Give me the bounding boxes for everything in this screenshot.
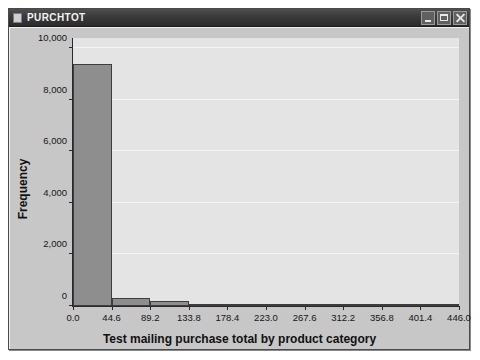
y-tick-label: 6,000: [43, 135, 67, 146]
screenshot-root: PURCHTOT Frequency 02,0004,0006,0008,000…: [0, 0, 480, 360]
x-tick-mark: [112, 306, 113, 310]
plot-area: 02,0004,0006,0008,00010,0000.044.689.213…: [72, 38, 459, 307]
histogram-chart: Frequency 02,0004,0006,0008,00010,0000.0…: [9, 27, 469, 349]
y-tick-label: 0: [62, 290, 67, 301]
y-tick-label: 10,000: [38, 32, 67, 43]
y-gridline: [73, 253, 459, 254]
x-tick-mark: [459, 306, 460, 310]
x-tick-label: 133.8: [177, 312, 201, 323]
x-tick-mark: [266, 306, 267, 310]
x-tick-label: 401.4: [409, 312, 433, 323]
histogram-bar: [343, 304, 382, 306]
document-icon: [13, 13, 22, 23]
y-axis-title: Frequency: [13, 28, 33, 349]
x-tick-mark: [382, 306, 383, 310]
y-tick-label: 4,000: [43, 186, 67, 197]
histogram-bar: [227, 304, 266, 306]
y-gridline: [73, 47, 459, 48]
histogram-bar: [189, 304, 228, 306]
x-tick-mark: [420, 306, 421, 310]
x-tick-label: 89.2: [141, 312, 160, 323]
x-tick-label: 223.0: [254, 312, 278, 323]
x-tick-label: 312.2: [331, 312, 355, 323]
maximize-button[interactable]: [437, 11, 451, 25]
close-button[interactable]: [453, 11, 467, 25]
minimize-button[interactable]: [421, 11, 435, 25]
histogram-bar: [150, 301, 189, 306]
y-gridline: [73, 99, 459, 100]
x-axis-title: Test mailing purchase total by product c…: [10, 332, 469, 346]
histogram-bar: [382, 304, 421, 306]
window-titlebar[interactable]: PURCHTOT: [9, 9, 469, 27]
y-tick-mark: [69, 47, 73, 48]
y-tick-label: 8,000: [43, 83, 67, 94]
x-tick-label: 356.8: [370, 312, 394, 323]
x-tick-label: 446.0: [447, 312, 471, 323]
histogram-bar: [305, 304, 344, 306]
histogram-bar: [73, 64, 112, 306]
histogram-bar: [112, 298, 151, 306]
y-gridline: [73, 202, 459, 203]
histogram-bar: [420, 304, 459, 306]
window-title: PURCHTOT: [27, 12, 421, 23]
x-tick-mark: [227, 306, 228, 310]
x-tick-label: 44.6: [102, 312, 121, 323]
x-tick-label: 178.4: [216, 312, 240, 323]
x-tick-mark: [305, 306, 306, 310]
x-tick-label: 267.6: [293, 312, 317, 323]
x-tick-mark: [150, 306, 151, 310]
y-tick-label: 2,000: [43, 238, 67, 249]
x-tick-mark: [343, 306, 344, 310]
plot-area-wrapper: 02,0004,0006,0008,00010,0000.044.689.213…: [72, 38, 459, 307]
x-tick-mark: [73, 306, 74, 310]
histogram-bar: [266, 304, 305, 306]
window-controls: [421, 11, 467, 25]
chart-window: PURCHTOT Frequency 02,0004,0006,0008,000…: [8, 8, 470, 350]
x-tick-mark: [189, 306, 190, 310]
y-axis-title-text: Frequency: [16, 158, 30, 219]
x-tick-label: 0.0: [66, 312, 79, 323]
y-gridline: [73, 150, 459, 151]
